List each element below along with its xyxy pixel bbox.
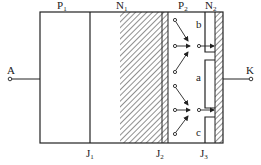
label-p2: P2: [178, 0, 188, 13]
cathode-hatch-strip: [215, 12, 223, 143]
label-p1: P1: [57, 0, 67, 13]
thyristor-diagram: P1 N1 P2 N2 J1 J2 J3 A K b a c: [0, 0, 261, 165]
n2-block-c: [205, 117, 215, 143]
n1-depletion-hatch: [120, 12, 162, 143]
j2-hatch-strip: [162, 12, 168, 143]
label-j3: J3: [200, 147, 208, 161]
label-cathode: K: [246, 64, 254, 76]
label-n1: N1: [116, 0, 128, 13]
carrier-flow-upper: [173, 18, 214, 73]
label-segment-c: c: [196, 126, 201, 138]
label-j2: J2: [156, 147, 164, 161]
carrier-flow-lower: [173, 84, 214, 135]
label-j1: J1: [86, 147, 94, 161]
n2-block-a: [205, 60, 215, 108]
label-segment-a: a: [196, 71, 201, 83]
label-n2: N2: [205, 0, 217, 13]
cathode-terminal-icon: [249, 77, 253, 81]
label-segment-b: b: [196, 18, 202, 30]
label-anode: A: [7, 64, 15, 76]
anode-terminal-icon: [8, 77, 12, 81]
